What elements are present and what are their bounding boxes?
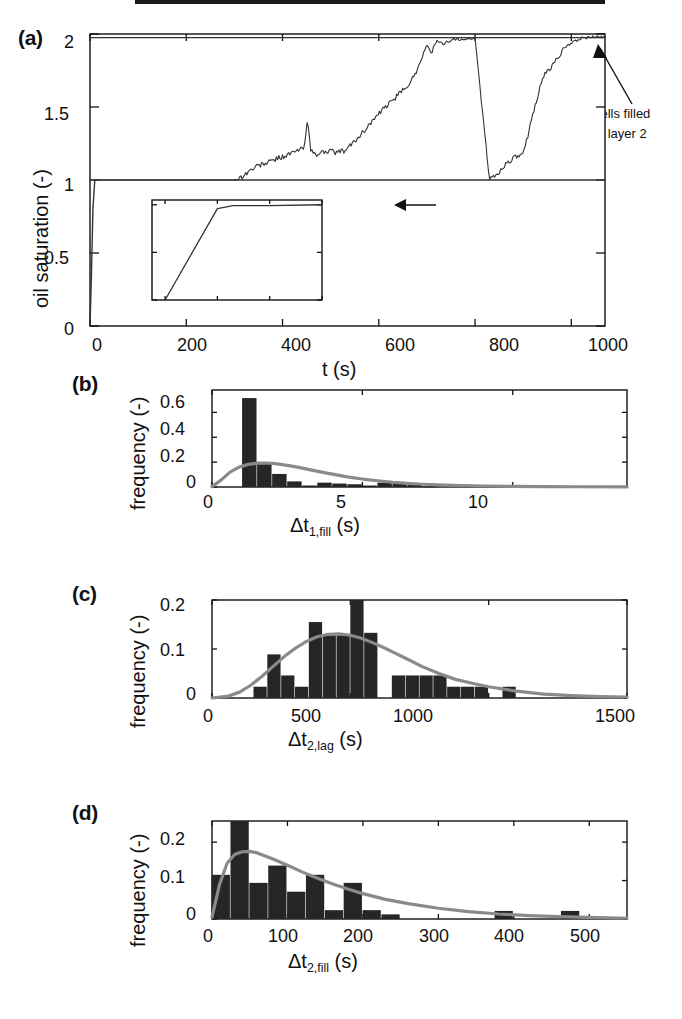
- panel-b-plot: [0, 362, 682, 547]
- panel-a: (a) oil saturation (-) 0 0.5 1 1.5 2 0 2…: [0, 8, 682, 360]
- panel-a-plot: [0, 8, 682, 360]
- panel-d-plot: [0, 795, 682, 995]
- panel-c: (c) frequency (-) 0 0.1 0.2 0 500 1000 1…: [0, 578, 682, 768]
- figure-container: (a) oil saturation (-) 0 0.5 1 1.5 2 0 2…: [0, 0, 682, 1019]
- panel-d: (d) frequency (-) 0 0.1 0.2 0 100 200 30…: [0, 795, 682, 995]
- panel-c-plot: [0, 578, 682, 768]
- panel-b: (b) frequency (-) 0 0.2 0.4 0.6 0 5 10 Δ…: [0, 362, 682, 547]
- top-scan-bar: [135, 0, 605, 4]
